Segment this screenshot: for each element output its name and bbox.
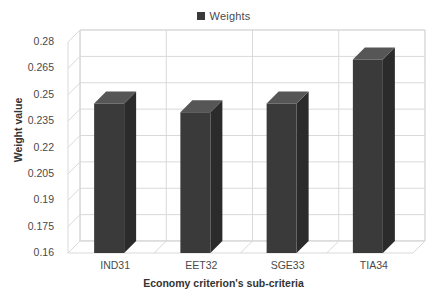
bar-chart: Weights Weight value Economy criterion's…	[0, 0, 447, 298]
plot-area	[0, 0, 447, 298]
